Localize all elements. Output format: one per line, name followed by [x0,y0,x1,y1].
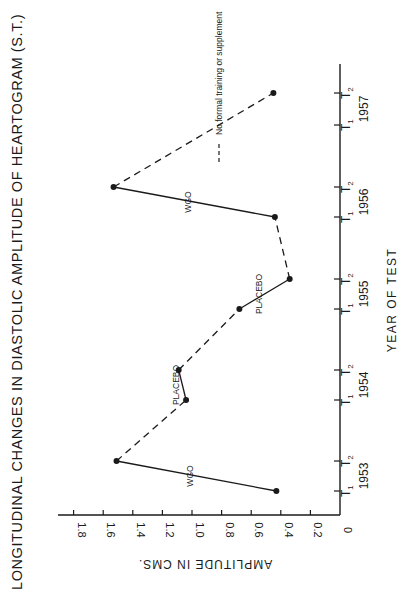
amplitude-tick-label: 0.8 [224,522,236,537]
test-tick-label: T2 [339,364,355,376]
amplitude-tick-label: 1.4 [135,522,147,537]
segment-annotation: PLACEBO [254,274,264,315]
dashed-segment [179,309,240,370]
data-point [287,276,293,282]
data-point [273,488,279,494]
dashed-segment [114,93,274,187]
test-tick-label: T1 [339,394,355,406]
test-tick-label: T2 [339,181,355,193]
test-tick-label: T2 [339,273,355,285]
amplitude-tick-label: 0.4 [283,522,295,537]
data-point [270,90,276,96]
test-tick-label: T1 [339,485,355,497]
amplitude-tick-label: 0 [342,527,354,533]
test-tick-label: T2 [339,455,355,467]
dashed-segment [275,217,290,279]
heartogram-chart: LONGITUDINAL CHANGES IN DIASTOLIC AMPLIT… [0,0,410,597]
solid-segment [114,187,275,217]
amplitude-tick-label: 1.8 [76,522,88,537]
amplitude-tick-label: 1.0 [194,522,206,537]
chart-canvas: LONGITUDINAL CHANGES IN DIASTOLIC AMPLIT… [0,0,410,597]
amplitude-tick-label: 1.2 [164,522,176,537]
amplitude-tick-label: 0.2 [312,522,324,537]
dashed-segment [117,400,187,461]
amplitude-axis-label: AMPLITUDE IN CMS. [138,557,272,571]
data-point [236,306,242,312]
test-tick-label: T1 [339,211,355,223]
amplitude-tick-label: 0.6 [253,522,265,537]
test-tick-label: T1 [339,119,355,131]
data-point [272,214,278,220]
year-axis-label: YEAR OF TEST [385,248,399,352]
year-label: 1954 [357,371,371,398]
test-tick-label: T1 [339,303,355,315]
test-tick-label: T2 [339,87,355,99]
solid-segment [117,461,277,491]
data-point [183,397,189,403]
data-point [114,458,120,464]
amplitude-tick-label: 1.6 [105,522,117,537]
legend-label: No formal training or supplement [214,11,224,135]
year-label: 1955 [357,280,371,307]
year-label: 1957 [357,95,371,122]
year-label: 1953 [357,462,371,489]
data-point [176,367,182,373]
data-point [111,184,117,190]
chart-title: LONGITUDINAL CHANGES IN DIASTOLIC AMPLIT… [9,14,25,590]
year-label: 1956 [357,188,371,215]
solid-segment [239,279,289,309]
segment-annotation: WGO [185,465,195,487]
segment-annotation: WGO [183,191,193,213]
